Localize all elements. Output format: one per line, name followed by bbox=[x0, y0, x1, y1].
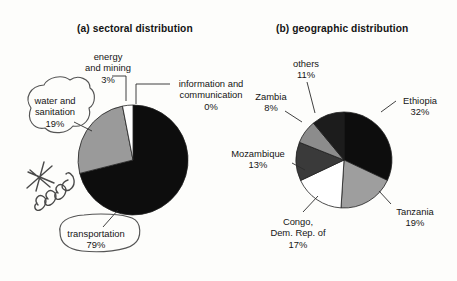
label-mozambique-line1: Mozambique bbox=[224, 148, 292, 159]
label-transportation: transportation 79% bbox=[58, 228, 134, 251]
label-energy-mining: energy and mining 3% bbox=[60, 51, 156, 85]
label-others: others 11% bbox=[280, 58, 332, 81]
figure-canvas: (a) sectoral distribution (b) geographic… bbox=[0, 0, 457, 281]
label-information-line2: communication bbox=[168, 89, 254, 100]
label-mozambique: Mozambique 13% bbox=[224, 148, 292, 171]
leader-transportation bbox=[103, 210, 118, 227]
label-information-communication: information and communication 0% bbox=[168, 78, 254, 112]
label-others-line2: 11% bbox=[280, 69, 332, 80]
label-water-line2: sanitation bbox=[24, 106, 86, 117]
label-water-line3: 19% bbox=[24, 118, 86, 129]
label-mozambique-line2: 13% bbox=[224, 159, 292, 170]
label-energy-line3: 3% bbox=[60, 74, 156, 85]
label-ethiopia-line2: 32% bbox=[392, 106, 448, 117]
label-water-line1: water and bbox=[24, 95, 86, 106]
leader-others bbox=[307, 82, 315, 113]
label-zambia: Zambia 8% bbox=[249, 91, 293, 114]
pie-b bbox=[296, 112, 392, 208]
label-water-sanitation: water and sanitation 19% bbox=[24, 95, 86, 129]
pie-a bbox=[78, 105, 188, 215]
label-zambia-line1: Zambia bbox=[249, 91, 293, 102]
label-ethiopia-line1: Ethiopia bbox=[392, 95, 448, 106]
label-congo-line2: Dem. Rep. of bbox=[254, 227, 342, 238]
label-zambia-line2: 8% bbox=[249, 102, 293, 113]
label-congo-line1: Congo, bbox=[254, 216, 342, 227]
label-congo-line3: 17% bbox=[254, 239, 342, 250]
label-energy-line2: and mining bbox=[60, 62, 156, 73]
label-ethiopia: Ethiopia 32% bbox=[392, 95, 448, 118]
leader-tanzania bbox=[379, 191, 391, 204]
label-tanzania-line1: Tanzania bbox=[386, 206, 444, 217]
label-transportation-line1: transportation bbox=[58, 228, 134, 239]
label-information-line1: information and bbox=[168, 78, 254, 89]
label-congo: Congo, Dem. Rep. of 17% bbox=[254, 216, 342, 250]
label-tanzania: Tanzania 19% bbox=[386, 206, 444, 229]
label-others-line1: others bbox=[280, 58, 332, 69]
label-transportation-line2: 79% bbox=[58, 239, 134, 250]
handdrawn-star bbox=[27, 162, 54, 191]
label-energy-line1: energy bbox=[60, 51, 156, 62]
label-information-line3: 0% bbox=[168, 101, 254, 112]
leader-information bbox=[136, 84, 170, 104]
label-tanzania-line2: 19% bbox=[386, 217, 444, 228]
leader-congo bbox=[303, 196, 318, 212]
